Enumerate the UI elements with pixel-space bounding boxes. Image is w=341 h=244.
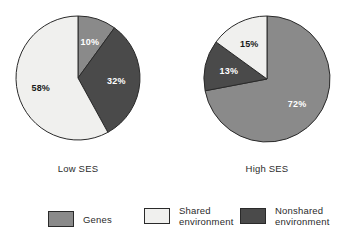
pie-label-high-ses: High SES <box>227 163 307 174</box>
pie-chart-high-ses: 72%13%15% <box>204 16 330 142</box>
legend-item-nonshared-environment[interactable]: Nonshared environment <box>240 205 329 227</box>
pie-slice-value-high-ses-nonshared-environment: 13% <box>220 66 239 76</box>
pie-label-low-ses: Low SES <box>38 163 118 174</box>
pie-slice-value-high-ses-shared-environment: 15% <box>240 39 259 49</box>
pie-slice-value-low-ses-genes: 10% <box>81 37 100 47</box>
legend-label-genes: Genes <box>83 214 112 225</box>
chart-legend: Genes Shared environment Nonshared envir… <box>0 200 341 242</box>
pie-slice-value-high-ses-genes: 72% <box>288 99 307 109</box>
legend-swatch-shared-environment <box>144 208 170 224</box>
legend-item-shared-environment[interactable]: Shared environment <box>144 205 233 227</box>
legend-label-nonshared-environment: Nonshared environment <box>275 205 329 227</box>
legend-swatch-nonshared-environment <box>240 208 266 224</box>
pie-slice-value-low-ses-nonshared-environment: 32% <box>107 76 126 86</box>
legend-label-shared-environment: Shared environment <box>179 205 233 227</box>
legend-swatch-genes <box>48 211 74 227</box>
pie-chart-low-ses: 10%32%58% <box>16 16 140 140</box>
legend-item-genes[interactable]: Genes <box>48 211 112 227</box>
pie-slice-value-low-ses-shared-environment: 58% <box>31 83 50 93</box>
